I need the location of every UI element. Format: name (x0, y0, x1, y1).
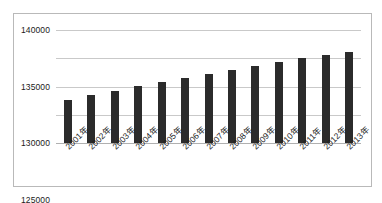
y-axis-tick-label: 125000 (21, 195, 50, 202)
chart-frame: 120000125000130000135000140000 2001年2002… (13, 13, 372, 187)
x-axis-labels-group: 2001年2002年2003年2004年2005年2006年2007年2008年… (56, 143, 361, 187)
y-axis-tick-label: 135000 (21, 82, 50, 92)
y-axis-tick-label: 140000 (21, 25, 50, 35)
y-axis-tick-label: 130000 (21, 138, 50, 148)
